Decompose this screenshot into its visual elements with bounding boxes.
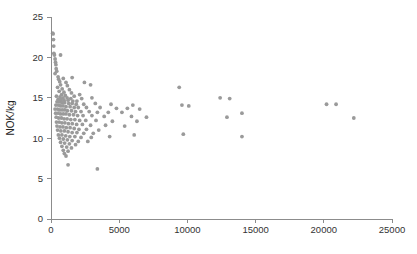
data-point — [61, 77, 65, 81]
data-point — [74, 143, 78, 147]
data-point — [84, 119, 88, 123]
data-point — [77, 127, 81, 131]
data-point — [86, 140, 90, 144]
data-point — [225, 115, 229, 119]
data-point — [70, 146, 74, 150]
data-point — [68, 135, 72, 139]
data-point — [83, 81, 87, 85]
y-tick-label: 15 — [32, 92, 43, 103]
data-point — [187, 104, 191, 108]
data-point — [52, 38, 56, 42]
data-point — [123, 124, 127, 128]
data-point — [70, 102, 74, 106]
data-point — [64, 154, 68, 158]
plot-area — [51, 31, 356, 171]
data-point — [60, 87, 64, 91]
data-point — [125, 106, 129, 110]
x-tick-label: 0 — [48, 224, 53, 235]
data-point — [180, 103, 184, 107]
data-point — [102, 114, 106, 118]
data-point — [177, 85, 181, 89]
data-point — [90, 96, 94, 100]
data-point — [87, 110, 91, 114]
scatter-plot-figure: 0500010000150002000025000 0510152025 NOK… — [0, 0, 417, 254]
x-tick-label: 10000 — [174, 224, 200, 235]
data-point — [63, 141, 67, 145]
data-point — [218, 96, 222, 100]
data-point — [89, 123, 93, 127]
data-point — [53, 72, 57, 76]
x-tick-label: 25000 — [379, 224, 405, 235]
data-point — [75, 123, 79, 127]
data-point — [81, 114, 85, 118]
data-point — [78, 119, 82, 123]
data-point — [89, 83, 93, 87]
data-point — [70, 131, 74, 135]
data-point — [57, 89, 61, 93]
data-point — [70, 76, 74, 80]
data-point — [65, 84, 69, 88]
data-point — [75, 99, 79, 103]
data-point — [91, 131, 95, 135]
data-point — [64, 134, 68, 138]
data-point — [72, 106, 76, 110]
data-point — [80, 123, 84, 127]
data-point — [53, 53, 57, 57]
data-point — [65, 109, 69, 113]
data-point — [98, 106, 102, 110]
data-point — [73, 135, 77, 139]
data-point — [74, 110, 78, 114]
data-point — [334, 102, 338, 106]
y-tick-label: 5 — [38, 173, 43, 184]
chart-canvas: 0500010000150002000025000 0510152025 NOK… — [0, 0, 417, 254]
data-point — [72, 94, 76, 98]
data-point — [325, 102, 329, 106]
data-point — [75, 131, 79, 135]
y-tick-label: 0 — [38, 213, 43, 224]
data-point — [131, 103, 135, 107]
data-point — [59, 140, 63, 144]
data-point — [240, 111, 244, 115]
data-point — [67, 102, 71, 106]
data-point — [69, 118, 73, 122]
data-point — [135, 119, 139, 123]
data-point — [66, 163, 70, 167]
data-point — [66, 130, 70, 134]
x-tick-label: 20000 — [311, 224, 337, 235]
data-point — [63, 101, 67, 105]
data-point — [54, 63, 58, 67]
data-point — [89, 135, 93, 139]
data-point — [73, 118, 77, 122]
data-point — [95, 167, 99, 171]
data-point — [58, 136, 62, 140]
x-axis: 0500010000150002000025000 — [48, 219, 405, 235]
data-point — [104, 123, 108, 127]
data-point — [66, 98, 70, 102]
data-point — [65, 145, 69, 149]
data-point — [80, 97, 84, 101]
data-point — [109, 102, 113, 106]
data-point — [61, 148, 65, 152]
data-point — [120, 110, 124, 114]
data-point — [76, 114, 80, 118]
data-point — [70, 139, 74, 143]
data-point — [228, 97, 232, 101]
y-tick-label: 25 — [32, 11, 43, 22]
data-point — [59, 129, 63, 133]
data-point — [108, 135, 112, 139]
data-point — [76, 140, 80, 144]
x-tick-label: 15000 — [242, 224, 268, 235]
data-point — [59, 83, 63, 87]
data-point — [68, 126, 72, 130]
data-point — [79, 110, 83, 114]
data-point — [145, 115, 149, 119]
data-point — [72, 127, 76, 131]
data-point — [94, 119, 98, 123]
data-point — [55, 94, 59, 98]
data-point — [106, 110, 110, 114]
data-point — [82, 131, 86, 135]
data-point — [58, 80, 62, 84]
data-point — [72, 113, 76, 117]
data-point — [63, 121, 67, 125]
data-point — [68, 113, 72, 117]
